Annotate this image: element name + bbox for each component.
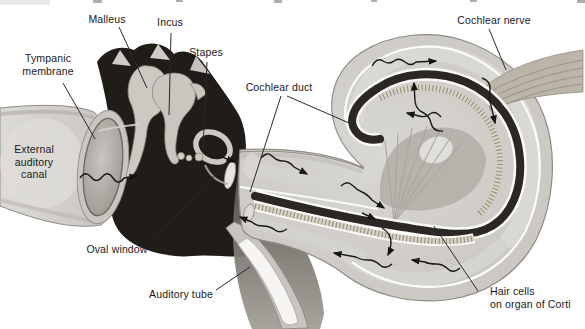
label-tympanic-membrane: Tympanic membrane (22, 52, 73, 77)
label-cochlear-nerve: Cochlear nerve (457, 14, 530, 27)
label-external-auditory-canal: External auditory canal (14, 143, 54, 181)
label-incus: Incus (157, 16, 183, 29)
label-auditory-tube: Auditory tube (149, 288, 213, 301)
stapes-head (195, 153, 203, 161)
incudostapedial-joint (186, 155, 192, 161)
label-oval-window: Oval window (86, 243, 147, 256)
top-crop-text-fragments (0, 0, 585, 5)
ear-illustration (0, 0, 585, 329)
label-hair-cells: Hair cells on organ of Corti (490, 285, 571, 310)
label-malleus: Malleus (88, 13, 125, 26)
incudostapedial-joint (178, 153, 185, 160)
vestibule-highlight (244, 153, 260, 179)
ear-anatomy-figure: Malleus Incus Stapes Tympanic membrane E… (0, 0, 585, 329)
label-cochlear-duct: Cochlear duct (246, 81, 313, 94)
label-stapes: Stapes (189, 46, 223, 59)
